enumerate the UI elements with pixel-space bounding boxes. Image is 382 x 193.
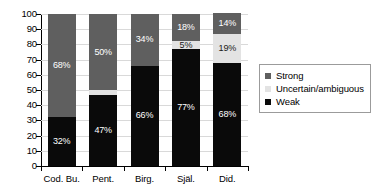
x-tick-mark xyxy=(82,167,83,171)
y-tick-label: 80 xyxy=(7,39,37,49)
x-tick-label-did: Did. xyxy=(197,174,257,184)
x-axis-line xyxy=(41,166,249,167)
x-tick-mark xyxy=(248,167,249,171)
x-tick-mark xyxy=(165,167,166,171)
y-tick-label: 50 xyxy=(7,85,37,95)
bars-container: 32%68%47%50%66%34%77%5%18%68%19%14% xyxy=(41,14,248,166)
legend-label: Strong xyxy=(276,71,303,81)
legend-item-uncertain-ambiguous[interactable]: Uncertain/ambiguous xyxy=(265,82,364,95)
x-tick-mark xyxy=(207,167,208,171)
y-tick-label: 70 xyxy=(7,55,37,65)
legend-swatch-icon xyxy=(265,73,271,79)
x-tick-mark xyxy=(124,167,125,171)
bar-value-label: 34% xyxy=(131,35,159,44)
bar-value-label: 66% xyxy=(131,111,159,120)
bar-pent[interactable]: 47%50% xyxy=(89,14,117,166)
bar-value-label: 50% xyxy=(89,48,117,57)
y-tick-label: 10 xyxy=(7,146,37,156)
bar-value-label: 32% xyxy=(48,137,76,146)
bar-segment-uncertain-ambiguous[interactable] xyxy=(89,90,117,95)
legend-label: Weak xyxy=(276,97,300,107)
bar-birg[interactable]: 66%34% xyxy=(131,14,159,166)
bar-value-label: 77% xyxy=(172,103,200,112)
bar-value-label: 5% xyxy=(172,41,200,50)
bar-value-label: 19% xyxy=(213,44,241,53)
chart-legend: StrongUncertain/ambiguousWeak xyxy=(259,64,371,113)
bar-value-label: 68% xyxy=(48,61,76,70)
bar-value-label: 47% xyxy=(89,126,117,135)
bar-value-label: 18% xyxy=(172,23,200,32)
stacked-bar-chart: 0102030405060708090100 32%68%47%50%66%34… xyxy=(0,0,382,193)
bar-did[interactable]: 68%19%14% xyxy=(213,14,241,166)
y-tick-label: 90 xyxy=(7,24,37,34)
y-tick-label: 100 xyxy=(7,9,37,19)
bar-sj-l[interactable]: 77%5%18% xyxy=(172,14,200,166)
bar-value-label: 14% xyxy=(213,19,241,28)
y-tick-label: 60 xyxy=(7,70,37,80)
legend-item-strong[interactable]: Strong xyxy=(265,69,364,82)
legend-item-weak[interactable]: Weak xyxy=(265,95,364,108)
legend-swatch-icon xyxy=(265,86,271,92)
y-tick-label: 30 xyxy=(7,115,37,125)
x-tick-mark xyxy=(41,167,42,171)
bar-cod-bu[interactable]: 32%68% xyxy=(48,14,76,166)
y-tick-label: 0 xyxy=(7,161,37,171)
bar-value-label: 68% xyxy=(213,110,241,119)
y-tick-label: 20 xyxy=(7,131,37,141)
y-tick-label: 40 xyxy=(7,100,37,110)
legend-swatch-icon xyxy=(265,99,271,105)
legend-label: Uncertain/ambiguous xyxy=(276,84,364,94)
